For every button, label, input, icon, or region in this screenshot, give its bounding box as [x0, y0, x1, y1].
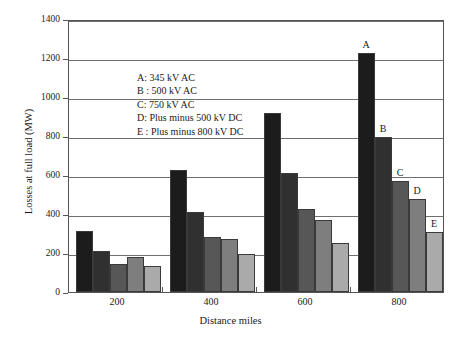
plot-area: ABCDE — [68, 20, 444, 293]
legend: A: 345 kV AC B : 500 kV AC C: 750 kV AC … — [137, 71, 244, 138]
bar-400-D — [221, 239, 238, 292]
y-tick-label-400: 400 — [18, 210, 60, 220]
y-tick-label-0: 0 — [18, 288, 60, 298]
bar-600-B — [281, 173, 298, 292]
bar-400-C — [204, 237, 221, 292]
x-axis-label: Distance miles — [0, 315, 461, 326]
x-tick-mark-2 — [256, 287, 257, 293]
bar-400-E — [238, 254, 255, 292]
x-tick-label-600: 600 — [275, 296, 335, 307]
bar-annotation-B: B — [380, 123, 387, 134]
bar-200-E — [144, 266, 161, 292]
x-tick-label-400: 400 — [181, 296, 241, 307]
bar-800-B: B — [375, 137, 392, 292]
x-tick-label-800: 800 — [369, 296, 429, 307]
x-tick-mark-3 — [350, 287, 351, 293]
bar-200-C — [110, 264, 127, 292]
y-tick-label-1000: 1000 — [18, 93, 60, 103]
y-axis-label: Losses at full load (MW) — [23, 42, 34, 282]
bar-600-D — [315, 220, 332, 292]
legend-item-c: C: 750 kV AC — [137, 98, 244, 111]
y-tick-label-200: 200 — [18, 249, 60, 259]
bar-group-600 — [264, 21, 349, 292]
bar-200-B — [93, 251, 110, 292]
bar-annotation-A: A — [362, 39, 369, 50]
bar-400-B — [187, 212, 204, 292]
bar-600-A — [264, 113, 281, 292]
y-tick-mark-0 — [63, 293, 68, 294]
y-tick-label-1200: 1200 — [18, 54, 60, 64]
bar-800-A: A — [358, 53, 375, 292]
bar-annotation-C: C — [397, 167, 404, 178]
bar-800-E: E — [426, 232, 443, 292]
legend-item-e: E : Plus minus 800 kV DC — [137, 125, 244, 138]
bar-group-800: ABCDE — [358, 21, 443, 292]
legend-item-a: A: 345 kV AC — [137, 71, 244, 84]
bar-600-E — [332, 243, 349, 292]
legend-item-d: D: Plus minus 500 kV DC — [137, 111, 244, 124]
x-tick-label-200: 200 — [87, 296, 147, 307]
bar-200-A — [76, 231, 93, 292]
legend-item-b: B : 500 kV AC — [137, 84, 244, 97]
bar-annotation-E: E — [431, 218, 437, 229]
bar-group-200 — [76, 21, 161, 292]
bar-800-D: D — [409, 199, 426, 292]
bar-400-A — [170, 170, 187, 292]
bar-group-400 — [170, 21, 255, 292]
bar-chart: Losses at full load (MW) 020040060080010… — [0, 0, 461, 339]
y-tick-label-1400: 1400 — [18, 15, 60, 25]
bar-annotation-D: D — [413, 185, 420, 196]
bar-200-D — [127, 257, 144, 292]
bar-600-C — [298, 209, 315, 292]
y-tick-label-800: 800 — [18, 132, 60, 142]
x-tick-mark-1 — [162, 287, 163, 293]
bar-800-C: C — [392, 181, 409, 292]
y-tick-label-600: 600 — [18, 171, 60, 181]
